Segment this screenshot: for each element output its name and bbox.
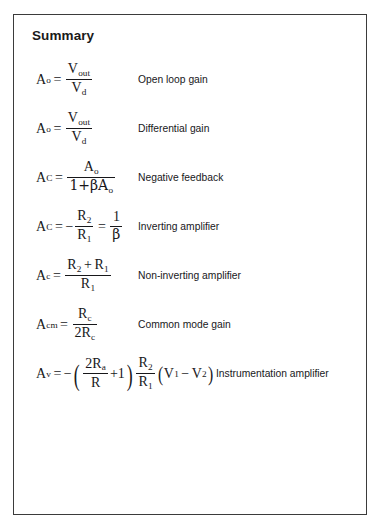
fraction-denominator: R1: [75, 227, 93, 244]
voltage-1: V: [164, 366, 174, 382]
denominator-variable: R: [81, 276, 90, 291]
equals-sign: =: [52, 219, 65, 235]
formula-row-non-inverting-amplifier: Ac = R2+R1 R1 Non-inverting amplifier: [14, 251, 366, 300]
formula-inverting-amplifier: AC = − R2 R1 = 1 β: [36, 202, 124, 251]
fraction-denominator: 1+βAo: [67, 178, 115, 195]
fraction: Ao 1+βAo: [65, 159, 117, 195]
fraction: Vout Vd: [64, 61, 94, 97]
fraction-numerator: 2Ra: [83, 356, 108, 373]
fraction: Vout Vd: [64, 110, 94, 146]
formula-row-inverting-amplifier: AC = − R2 R1 = 1 β Inverting amplifier: [14, 202, 366, 251]
variable-lhs: A: [36, 268, 46, 284]
negative-sign: −: [65, 219, 73, 235]
formula-row-open-loop-gain: Ao = Vout Vd Open loop gain: [14, 55, 366, 104]
formula-description: Differential gain: [138, 104, 209, 153]
denominator-variable: R: [82, 325, 91, 340]
slide-frame: Summary Ao = Vout Vd Open loop gain Ao =…: [13, 14, 367, 515]
formula-open-loop-gain: Ao = Vout Vd: [36, 55, 94, 104]
formula-row-negative-feedback: AC = Ao 1+βAo Negative feedback: [14, 153, 366, 202]
voltage-2: V: [192, 366, 202, 382]
denominator-expression: 1+βA: [69, 177, 108, 193]
variable-lhs: A: [36, 366, 46, 382]
fraction-2: R2 R1: [134, 355, 156, 391]
numerator-subscript: out: [78, 68, 90, 78]
numerator-subscript: o: [94, 166, 99, 176]
fraction2-denominator: R1: [136, 374, 154, 391]
equals-sign: =: [51, 121, 64, 137]
variable-lhs: A: [36, 170, 46, 186]
fraction-numerator: Ao: [67, 159, 115, 176]
fraction-numerator: Vout: [66, 61, 92, 78]
formula-description: Non-inverting amplifier: [138, 251, 241, 300]
variable-lhs: A: [36, 121, 46, 137]
denominator-subscript: d: [82, 87, 87, 97]
formula-description: Common mode gain: [138, 300, 231, 349]
fraction2-numerator: 1: [110, 209, 122, 225]
fraction-numerator: R2: [75, 208, 93, 225]
equals-sign: =: [52, 170, 65, 186]
formula-description: Inverting amplifier: [138, 202, 219, 251]
fraction2-denominator: β: [110, 227, 122, 243]
voltage-2-subscript: 2: [202, 369, 207, 379]
formula-list: Ao = Vout Vd Open loop gain Ao = Vout Vd: [14, 55, 366, 398]
denominator-variable: V: [71, 129, 81, 144]
numerator-variable: R: [67, 257, 76, 272]
denominator-coefficient: 2: [75, 325, 82, 340]
fraction: 2Ra R: [81, 356, 110, 391]
fraction-denominator: 2Rc: [73, 325, 98, 342]
variable-lhs: A: [36, 219, 46, 235]
formula-row-common-mode-gain: Acm = Rc 2Rc Common mode gain: [14, 300, 366, 349]
fraction-denominator: R1: [65, 276, 110, 293]
variable-lhs: A: [36, 317, 46, 333]
fraction-denominator: Vd: [66, 80, 92, 97]
numerator-variable: R: [77, 208, 86, 223]
plus-one-term: +1: [110, 366, 125, 382]
denominator-variable: V: [71, 80, 81, 95]
equals-sign: =: [51, 366, 64, 382]
numerator-subscript-2: 1: [104, 264, 109, 274]
fraction-numerator: R2+R1: [65, 257, 110, 274]
denominator2-subscript: 1: [148, 381, 153, 391]
variable-lhs: A: [36, 72, 46, 88]
denominator-subscript: o: [108, 185, 113, 195]
formula-non-inverting-amplifier: Ac = R2+R1 R1: [36, 251, 113, 300]
equals-sign: =: [51, 72, 64, 88]
numerator-operator: +: [81, 257, 94, 273]
formula-description: Negative feedback: [138, 153, 223, 202]
page-title: Summary: [32, 28, 94, 43]
formula-common-mode-gain: Acm = Rc 2Rc: [36, 300, 99, 349]
numerator-subscript: a: [102, 362, 106, 372]
formula-differential-gain: Ao = Vout Vd: [36, 104, 94, 153]
numerator2-subscript: 2: [148, 362, 153, 372]
numerator-variable: A: [84, 159, 94, 174]
fraction-2: 1 β: [108, 209, 124, 242]
numerator-expression: 2R: [85, 356, 101, 371]
formula-row-instrumentation-amplifier: Av = − ( 2Ra R +1 ) R2 R1 ( V1 −: [14, 349, 366, 398]
denominator-subscript: c: [91, 332, 95, 342]
equals-sign: =: [58, 317, 71, 333]
denominator-subscript: 1: [90, 283, 95, 293]
formula-description: Instrumentation amplifier: [216, 349, 329, 398]
equals-sign: =: [50, 268, 63, 284]
formula-row-differential-gain: Ao = Vout Vd Differential gain: [14, 104, 366, 153]
minus-sign: −: [179, 366, 192, 382]
numerator-variable: R: [78, 306, 87, 321]
variable-lhs-subscript: cm: [46, 320, 57, 330]
fraction-denominator: R: [83, 375, 108, 391]
negative-sign: −: [64, 366, 72, 382]
numerator2-variable: R: [138, 355, 147, 370]
fraction-numerator: Rc: [73, 306, 98, 323]
fraction: R2+R1 R1: [63, 257, 112, 293]
numerator-variable: V: [68, 61, 78, 76]
formula-instrumentation-amplifier: Av = − ( 2Ra R +1 ) R2 R1 ( V1 −: [36, 349, 214, 398]
equals-sign-2: =: [95, 219, 108, 235]
numerator-variable: V: [68, 110, 78, 125]
numerator-subscript: c: [88, 313, 92, 323]
numerator-variable-2: R: [94, 257, 103, 272]
fraction-denominator: Vd: [66, 129, 92, 146]
formula-negative-feedback: AC = Ao 1+βAo: [36, 153, 117, 202]
formula-description: Open loop gain: [138, 55, 208, 104]
numerator-subscript: out: [78, 117, 90, 127]
numerator-subscript: 2: [87, 215, 92, 225]
denominator2-variable: R: [138, 374, 147, 389]
